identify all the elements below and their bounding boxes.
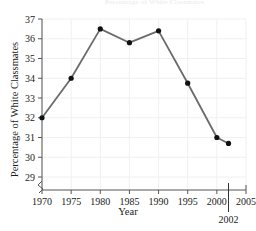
x-axis-ticks: 19701975198019851990199520002005 [32, 190, 256, 207]
gridlines [42, 19, 246, 190]
svg-text:37: 37 [25, 14, 35, 25]
svg-text:33: 33 [25, 93, 35, 104]
svg-text:31: 31 [25, 132, 35, 143]
svg-text:36: 36 [25, 33, 35, 44]
svg-text:29: 29 [25, 172, 35, 183]
svg-text:35: 35 [25, 53, 35, 64]
y-axis-ticks: 293031323334353637 [25, 14, 42, 183]
line-chart-svg: 293031323334353637 197019751980198519901… [0, 0, 256, 231]
data-point-markers [39, 26, 231, 146]
svg-text:34: 34 [25, 73, 35, 84]
y-axis-title: Percentage of White Classmates [9, 30, 20, 190]
x-axis-title: Year [0, 206, 256, 217]
data-series-line [42, 29, 229, 144]
svg-text:30: 30 [25, 152, 35, 163]
plot-frame [42, 19, 246, 190]
svg-text:32: 32 [25, 112, 35, 123]
chart-figure: Percentage of White Classmates 293031323… [0, 0, 256, 231]
